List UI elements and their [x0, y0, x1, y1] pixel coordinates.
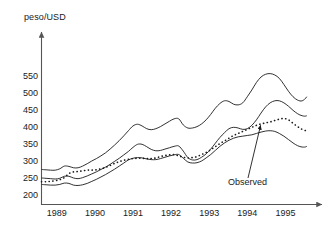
- x-tick-label: 1990: [78, 208, 112, 218]
- y-tick-label: 400: [12, 122, 38, 132]
- y-tick-label: 550: [12, 71, 38, 81]
- y-tick-label: 300: [12, 156, 38, 166]
- series-layer: [42, 74, 307, 186]
- chart-container: peso/USD 200250300350400450500550 198919…: [0, 0, 334, 235]
- x-tick-label: 1991: [116, 208, 150, 218]
- x-tick-label: 1989: [40, 208, 74, 218]
- y-tick-label: 500: [12, 88, 38, 98]
- y-tick-label: 450: [12, 105, 38, 115]
- y-tick-label: 350: [12, 139, 38, 149]
- y-tick-label: 200: [12, 190, 38, 200]
- series-line-observed: [42, 118, 307, 181]
- observed-annotation-label: Observed: [228, 177, 267, 187]
- x-tick-label: 1995: [268, 208, 302, 218]
- x-tick-label: 1994: [230, 208, 264, 218]
- chart-plot-area: [0, 0, 334, 235]
- y-tick-label: 250: [12, 173, 38, 183]
- observed-annotation-arrow: [248, 125, 261, 178]
- x-tick-label: 1993: [192, 208, 226, 218]
- x-tick-label: 1992: [154, 208, 188, 218]
- series-line-middle-band: [42, 101, 307, 179]
